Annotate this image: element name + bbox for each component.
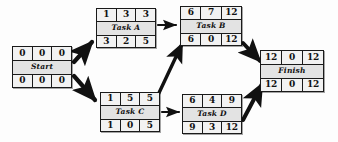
node-finish-bottom-row: 12 0 12 xyxy=(261,78,323,92)
node-task-c-slack: 0 xyxy=(120,120,140,132)
node-task-b-late-finish: 12 xyxy=(221,34,241,46)
network-diagram-canvas: 0 0 0 Start 0 0 0 1 3 3 Task A 3 2 5 6 7… xyxy=(0,0,338,142)
node-start-early-start: 0 xyxy=(13,47,32,60)
node-task-c-label: Task C xyxy=(101,106,159,119)
node-task-a-late-start: 3 xyxy=(97,36,116,48)
node-finish-duration: 0 xyxy=(281,51,302,64)
node-finish-late-finish: 12 xyxy=(302,79,323,92)
node-task-d-slack: 3 xyxy=(202,122,222,134)
node-finish-late-start: 12 xyxy=(261,79,281,92)
node-start-early-finish: 0 xyxy=(51,47,71,60)
node-task-d-late-start: 9 xyxy=(183,122,202,134)
node-task-a-early-start: 1 xyxy=(97,9,116,21)
node-task-c-duration: 5 xyxy=(120,93,140,105)
node-task-d-label: Task D xyxy=(183,108,241,121)
node-task-a-late-finish: 5 xyxy=(135,36,155,48)
node-task-a[interactable]: 1 3 3 Task A 3 2 5 xyxy=(96,8,156,48)
node-task-c-late-start: 1 xyxy=(101,120,120,132)
node-start[interactable]: 0 0 0 Start 0 0 0 xyxy=(12,46,72,88)
node-start-bottom-row: 0 0 0 xyxy=(13,74,71,88)
node-task-b-duration: 7 xyxy=(200,7,220,19)
node-task-d-early-finish: 9 xyxy=(221,95,241,107)
node-task-b[interactable]: 6 7 12 Task B 6 0 12 xyxy=(180,6,242,46)
node-finish-early-finish: 12 xyxy=(302,51,323,64)
edge-task-c-to-task-b xyxy=(158,44,182,95)
node-finish-label: Finish xyxy=(261,65,323,78)
node-task-b-early-start: 6 xyxy=(181,7,200,19)
edge-start-to-task-c xyxy=(74,76,95,100)
node-task-d-late-finish: 12 xyxy=(221,122,241,134)
node-task-a-label: Task A xyxy=(97,22,155,35)
node-start-label: Start xyxy=(13,61,71,74)
node-finish-early-start: 12 xyxy=(261,51,281,64)
node-task-b-early-finish: 12 xyxy=(221,7,241,19)
node-finish[interactable]: 12 0 12 Finish 12 0 12 xyxy=(260,50,324,92)
node-finish-top-row: 12 0 12 xyxy=(261,51,323,65)
node-finish-slack: 0 xyxy=(281,79,302,92)
node-task-a-top-row: 1 3 3 xyxy=(97,9,155,22)
node-task-a-early-finish: 3 xyxy=(135,9,155,21)
node-task-c-top-row: 1 5 5 xyxy=(101,93,159,106)
node-start-late-finish: 0 xyxy=(51,75,71,88)
node-task-c-early-finish: 5 xyxy=(139,93,159,105)
node-task-c-late-finish: 5 xyxy=(139,120,159,132)
node-start-late-start: 0 xyxy=(13,75,32,88)
node-task-d-bottom-row: 9 3 12 xyxy=(183,121,241,134)
node-task-b-bottom-row: 6 0 12 xyxy=(181,33,241,46)
node-task-b-label: Task B xyxy=(181,20,241,33)
node-task-a-bottom-row: 3 2 5 xyxy=(97,35,155,48)
node-task-c[interactable]: 1 5 5 Task C 1 0 5 xyxy=(100,92,160,132)
node-task-b-top-row: 6 7 12 xyxy=(181,7,241,20)
node-task-c-early-start: 1 xyxy=(101,93,120,105)
node-task-a-slack: 2 xyxy=(116,36,136,48)
node-task-b-slack: 0 xyxy=(200,34,220,46)
node-task-d-top-row: 6 4 9 xyxy=(183,95,241,108)
edge-task-b-to-finish xyxy=(243,43,260,61)
node-task-b-late-start: 6 xyxy=(181,34,200,46)
node-task-c-bottom-row: 1 0 5 xyxy=(101,119,159,132)
node-task-d[interactable]: 6 4 9 Task D 9 3 12 xyxy=(182,94,242,134)
node-start-slack: 0 xyxy=(32,75,52,88)
node-task-a-duration: 3 xyxy=(116,9,136,21)
node-start-top-row: 0 0 0 xyxy=(13,47,71,61)
node-start-duration: 0 xyxy=(32,47,52,60)
node-task-d-duration: 4 xyxy=(202,95,222,107)
node-task-d-early-start: 6 xyxy=(183,95,202,107)
edge-start-to-task-a xyxy=(74,42,92,62)
